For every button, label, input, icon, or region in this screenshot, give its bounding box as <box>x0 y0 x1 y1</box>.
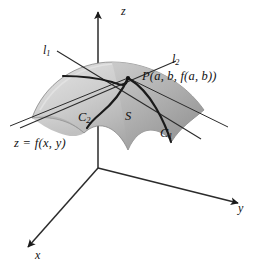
point-p-label: P(a, b, f(a, b)) <box>142 70 217 83</box>
tangent-line-l1-subscript: 1 <box>46 49 50 58</box>
curve-c1-subscript: 1 <box>168 131 172 141</box>
y-axis <box>98 168 238 203</box>
tangent-line-l2-label: l2 <box>172 53 179 67</box>
math-figure-tangent-plane: z y x l1 l2 C1 C2 S P(a, b, f(a, b)) z =… <box>0 0 260 266</box>
point-p-marker <box>126 76 130 80</box>
z-axis-label: z <box>121 5 126 17</box>
tangent-line-l1-label: l1 <box>43 44 50 58</box>
surface-s-label: S <box>125 110 131 123</box>
curve-c1-label: C1 <box>160 127 173 141</box>
curve-c2-label: C2 <box>78 111 91 125</box>
x-axis <box>28 168 98 247</box>
surface-equation-label: z = f(x, y) <box>14 137 66 150</box>
curve-c2-subscript: 2 <box>86 115 90 125</box>
y-axis-label: y <box>238 202 243 214</box>
tangent-line-l2-subscript: 2 <box>175 58 179 67</box>
figure-canvas <box>0 0 260 266</box>
x-axis-label: x <box>35 249 40 261</box>
